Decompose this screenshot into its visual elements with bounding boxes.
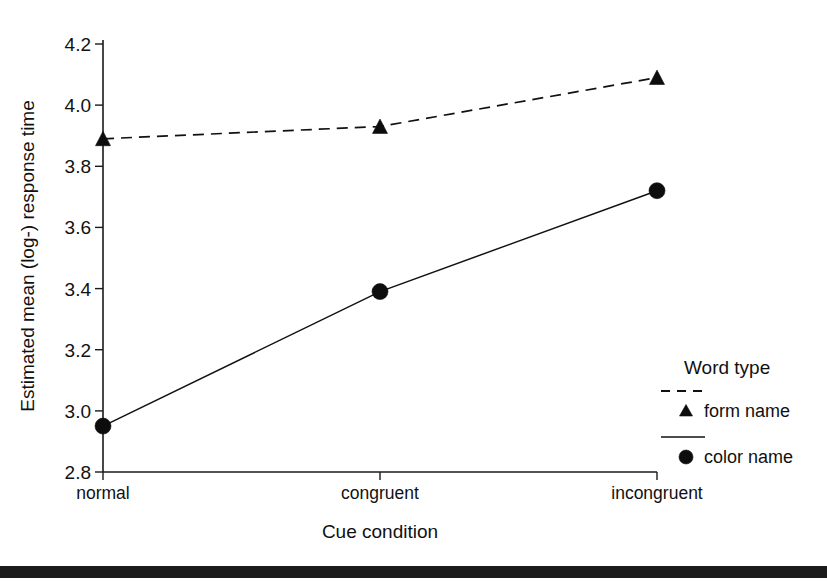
x-tick-label: congruent [341,483,419,503]
x-tick-label: normal [76,483,130,503]
x-tick-group: normal congruent incongruent [76,472,703,503]
y-tick-label: 3.0 [65,401,91,422]
figure-panel: 2.8 3.0 3.2 3.4 3.6 3.8 4.0 4.2 normal c… [0,0,827,582]
data-point-marker-circle [372,284,388,300]
series-line-color-name [103,191,657,426]
legend-marker-triangle-icon [680,405,693,417]
y-axis-title: Estimated mean (log-) response time [17,100,38,412]
y-tick-label: 3.8 [65,156,91,177]
y-tick-label: 4.0 [65,95,91,116]
legend-label-form-name: form name [704,401,790,421]
data-point-marker-circle [95,418,111,434]
x-axis-title: Cue condition [322,521,438,542]
y-tick-label: 3.2 [65,340,91,361]
legend: Word type form name color name [661,357,793,467]
data-point-marker-triangle [650,70,665,84]
legend-label-color-name: color name [704,447,793,467]
y-tick-label: 2.8 [65,462,91,483]
y-tick-group: 2.8 3.0 3.2 3.4 3.6 3.8 4.0 4.2 [65,34,103,483]
legend-title: Word type [684,357,770,378]
y-tick-label: 3.6 [65,217,91,238]
y-tick-label: 4.2 [65,34,91,55]
x-tick-label: incongruent [611,483,703,503]
y-tick-label: 3.4 [65,279,92,300]
data-point-marker-circle [649,183,665,199]
series-color-name [95,183,665,434]
axis-group [103,40,657,472]
line-chart: 2.8 3.0 3.2 3.4 3.6 3.8 4.0 4.2 normal c… [0,0,827,582]
legend-marker-circle-icon [679,450,693,464]
series-form-name [96,70,665,146]
footer-bar [0,566,827,578]
